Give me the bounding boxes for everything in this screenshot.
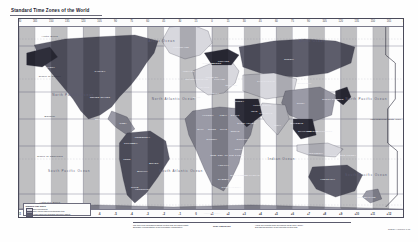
footer-caption-right-2: Daylight saving time is not reflected on…: [255, 226, 298, 229]
longitude-tick-3: 135: [65, 20, 69, 23]
longitude-tick-17: 75: [291, 20, 294, 23]
region-label-3: UNITED STATES: [90, 96, 110, 98]
offset-tick-6: -5: [114, 212, 117, 216]
longitude-tick-23: 165: [387, 20, 391, 23]
map-frame: 1801651501351201059075604530150153045607…: [18, 18, 404, 218]
region-label-43: VENEZUELA: [135, 136, 151, 138]
longitude-tick-16: 60: [275, 20, 278, 23]
offset-tick-16: +5: [275, 212, 278, 216]
region-label-21: RUSSIA: [284, 58, 294, 60]
longitude-tick-5: 105: [97, 20, 101, 23]
latitude-label-3: Tropic of Capricorn: [37, 154, 63, 157]
longitude-tick-6: 90: [114, 20, 117, 23]
ocean-label-0: Arctic Ocean: [148, 39, 175, 43]
region-label-40: PERU: [124, 158, 131, 160]
latitude-label-1: Tropic of Cancer: [39, 74, 61, 77]
longitude-tick-20: 120: [338, 20, 342, 23]
footer-date-code: 802839AI (R01000) 1-15: [388, 228, 410, 231]
region-label-30: PAPUA NEW GUINEA: [330, 154, 356, 156]
region-label-34: UKRAINE: [225, 84, 237, 86]
offset-tick-17: +6: [291, 212, 294, 216]
region-label-23: CHINA: [297, 102, 305, 104]
region-label-60: ANTARCTICA: [204, 212, 221, 214]
longitude-tick-13: 15: [227, 20, 230, 23]
region-label-56: AFGHANISTAN: [253, 104, 272, 106]
region-label-24: MONGOLIA: [298, 82, 312, 84]
region-label-33: TURKEY: [234, 100, 245, 102]
offset-tick-24: -12: [403, 212, 404, 216]
title-divider: [10, 15, 102, 16]
region-label-7: ICELAND: [183, 70, 194, 72]
longitude-tick-18: 90: [307, 20, 310, 23]
region-label-5: BRAZIL: [149, 162, 159, 164]
region-label-58: NAMIBIA: [218, 178, 229, 180]
region-label-29: NEW ZEALAND: [357, 196, 376, 198]
longitude-tick-8: 60: [146, 20, 149, 23]
region-label-16: DEM. REP. OF THE CONGO: [210, 154, 244, 156]
region-label-36: FINLAND: [218, 60, 229, 62]
offset-tick-18: +7: [307, 212, 310, 216]
region-label-0: GREENLAND: [173, 46, 189, 48]
region-label-4: MEXICO: [95, 118, 105, 120]
region-label-28: AUSTRALIA: [320, 178, 335, 180]
region-label-46: SUDAN: [231, 130, 240, 132]
ocean-label-6: South Atlantic Ocean: [159, 169, 203, 173]
region-label-11: FRANCE: [199, 86, 210, 88]
footer-caption-left-2: Boundary representation is not necessari…: [133, 226, 183, 229]
date-line-label: International Date Line: [370, 118, 401, 121]
region-label-53: VIETNAM: [307, 130, 319, 132]
longitude-tick-7: 75: [130, 20, 133, 23]
region-label-12: ALGERIA: [202, 114, 214, 116]
longitude-tick-4: 120: [81, 20, 85, 23]
longitude-tick-14: 30: [243, 20, 246, 23]
longitude-tick-21: 135: [355, 20, 359, 23]
region-label-31: PHILIPPINES: [316, 130, 332, 132]
offset-tick-11: 0: [195, 212, 197, 216]
region-label-50: NIGER: [208, 128, 216, 130]
region-label-59: MOZAMBIQUE: [230, 174, 248, 176]
longitude-tick-24: 180: [403, 20, 404, 23]
region-label-15: NIGERIA: [207, 138, 218, 140]
ocean-label-1: Arctic Ocean: [299, 39, 326, 43]
footer-scale-note: Scale 1:85,000,000: [213, 225, 231, 228]
region-label-47: ETHIOPIA: [237, 138, 249, 140]
offset-tick-14: +3: [243, 212, 246, 216]
offset-tick-22: +11: [371, 212, 376, 216]
offset-tick-13: +2: [226, 212, 229, 216]
offset-tick-20: +9: [339, 212, 342, 216]
longitude-tick-19: 105: [322, 20, 326, 23]
region-label-25: INDIA: [274, 124, 281, 126]
ocean-label-3: North Atlantic Ocean: [152, 97, 195, 101]
longitude-tick-15: 45: [259, 20, 262, 23]
offset-tick-5: -6: [98, 212, 101, 216]
region-label-2: ALASKA: [45, 66, 56, 68]
map-graphic: [19, 19, 404, 218]
longitude-tick-10: 30: [178, 20, 181, 23]
region-label-38: GERMANY: [206, 76, 219, 78]
region-label-57: SOUTH KOREA: [322, 98, 341, 100]
offset-tick-21: +10: [354, 212, 359, 216]
region-label-1: CANADA: [95, 70, 106, 72]
longitude-tick-11: 15: [194, 20, 197, 23]
region-label-41: CHILE: [131, 186, 139, 188]
region-label-32: IRAN: [251, 110, 257, 112]
page-title: Standard Time Zones of the World: [11, 8, 89, 13]
latitude-label-0: Arctic Circle: [42, 34, 59, 37]
longitude-tick-12: 0: [211, 20, 212, 23]
longitude-tick-row-top: 1801651501351201059075604530150153045607…: [19, 19, 403, 27]
region-label-6: ARGENTINA: [135, 188, 150, 190]
legend-title: Standard Time Zones: [26, 205, 46, 207]
region-label-45: CUBA: [120, 122, 127, 124]
ocean-label-5: South Pacific Ocean: [48, 169, 90, 173]
legend-swatch-2: [26, 213, 33, 217]
longitude-tick-2: 150: [49, 20, 53, 23]
region-label-54: MYANMAR: [290, 122, 303, 124]
region-label-10: SPAIN: [193, 96, 201, 98]
offset-tick-15: +4: [259, 212, 262, 216]
offset-tick-7: -4: [130, 212, 133, 216]
offset-tick-0: -11: [18, 212, 21, 216]
region-label-35: SWEDEN: [210, 62, 221, 64]
legend-box: Standard Time Zones Zone boundaries Time…: [23, 203, 91, 216]
longitude-tick-22: 150: [371, 20, 375, 23]
region-label-22: KAZAKHSTAN: [257, 80, 275, 82]
